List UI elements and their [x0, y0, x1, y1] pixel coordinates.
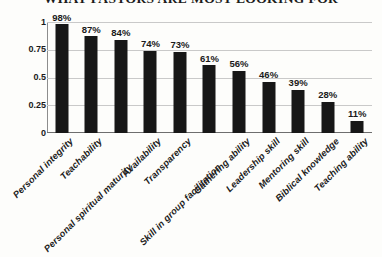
- y-axis-tick-label: 1: [6, 18, 46, 27]
- x-axis-category-label: Leadership skill: [224, 136, 282, 194]
- x-axis-category-label: Teaching ability: [313, 136, 371, 194]
- bar[interactable]: [262, 82, 275, 133]
- bar[interactable]: [321, 102, 334, 133]
- plot-area: 98%87%84%74%73%61%56%46%39%28%11%: [47, 22, 372, 133]
- bar-value-label: 98%: [52, 13, 71, 23]
- bar[interactable]: [114, 40, 127, 133]
- bar-value-label: 61%: [200, 54, 219, 64]
- bar[interactable]: [173, 52, 186, 133]
- x-axis-category-labels: Personal integrityTeachabilityPersonal s…: [47, 136, 372, 254]
- bar[interactable]: [144, 51, 157, 133]
- bar-slot: 11%: [342, 22, 372, 133]
- bar-value-label: 56%: [230, 59, 249, 69]
- bar[interactable]: [292, 90, 305, 133]
- bar[interactable]: [351, 121, 364, 133]
- y-axis-tick-label: 0.5: [6, 73, 46, 82]
- bar-value-label: 39%: [289, 78, 308, 88]
- bar-slot: 39%: [283, 22, 313, 133]
- bar-slot: 74%: [136, 22, 166, 133]
- bar-slot: 56%: [224, 22, 254, 133]
- x-axis-category-label: Personal spiritual maturity: [42, 162, 134, 254]
- bar[interactable]: [85, 36, 98, 133]
- y-axis-tick-label: 0.25: [6, 101, 46, 110]
- chart-title: WHAT PASTORS ARE MOST LOOKING FOR: [0, 0, 382, 7]
- bar-slot: 98%: [47, 22, 77, 133]
- bar-slot: 61%: [195, 22, 225, 133]
- y-axis-tick-label: 0.75: [6, 45, 46, 54]
- bar-slot: 73%: [165, 22, 195, 133]
- bar[interactable]: [233, 71, 246, 133]
- bar[interactable]: [203, 65, 216, 133]
- bar-value-label: 73%: [170, 40, 189, 50]
- bar-chart-figure: WHAT PASTORS ARE MOST LOOKING FOR 00.250…: [0, 0, 382, 257]
- bar-slot: 46%: [254, 22, 284, 133]
- bar[interactable]: [55, 24, 68, 133]
- bar-value-label: 46%: [259, 70, 278, 80]
- bar-value-label: 28%: [318, 90, 337, 100]
- bar-value-label: 87%: [82, 25, 101, 35]
- bar-value-label: 11%: [348, 109, 367, 119]
- bar-value-label: 84%: [111, 28, 130, 38]
- bar-slot: 28%: [313, 22, 343, 133]
- y-axis-tick-label: 0: [6, 129, 46, 138]
- bar-slot: 87%: [77, 22, 107, 133]
- bar-slot: 84%: [106, 22, 136, 133]
- bar-value-label: 74%: [141, 39, 160, 49]
